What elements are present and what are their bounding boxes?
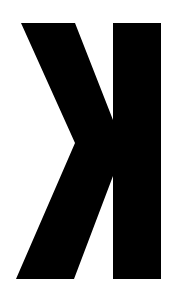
glyph-stem: [113, 23, 161, 279]
mirrored-k-glyph: ꓘ: [0, 0, 171, 298]
mirrored-k-icon: [0, 0, 171, 298]
